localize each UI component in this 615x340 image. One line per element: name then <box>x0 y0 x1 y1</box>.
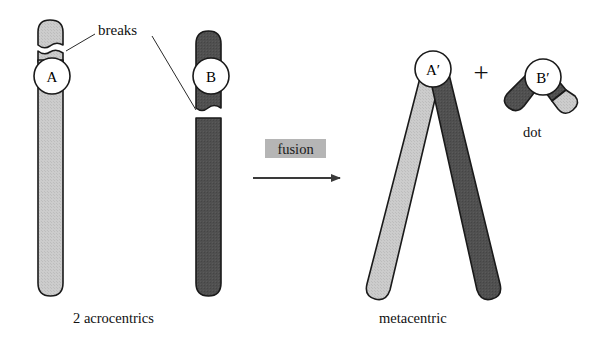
plus-sign: + <box>473 58 488 88</box>
chromosome-b-centromere-label: B <box>206 69 216 85</box>
breaks-leader-line-a <box>66 34 95 51</box>
caption-left: 2 acrocentrics <box>73 310 154 326</box>
chromosome-b: B <box>193 31 229 296</box>
metacentric-centromere-label: A′ <box>426 62 440 78</box>
metacentric-right-arm <box>429 66 501 300</box>
diagram-canvas: A B breaks fusion <box>0 0 615 340</box>
fusion-process: fusion <box>253 139 340 178</box>
metacentric-chromosome: A′ <box>366 51 500 300</box>
breaks-label: breaks <box>98 22 137 38</box>
chromosome-a-short-arm <box>38 20 63 48</box>
fusion-label: fusion <box>277 141 314 157</box>
dot-centromere-label: B′ <box>536 70 549 86</box>
chromosome-b-long-arm <box>196 118 221 296</box>
metacentric-left-arm <box>366 70 440 300</box>
robertsonian-fusion-diagram: A B breaks fusion <box>0 0 615 340</box>
breaks-annotation: breaks <box>66 22 196 110</box>
chromosome-a-long-arm <box>38 60 63 296</box>
dot-chromosome: B′ dot <box>504 59 577 140</box>
chromosome-a-centromere-label: A <box>47 69 58 85</box>
breaks-leader-line-b <box>152 36 196 110</box>
caption-right: metacentric <box>379 310 447 326</box>
chromosome-a: A <box>34 20 70 296</box>
dot-label: dot <box>523 124 542 140</box>
